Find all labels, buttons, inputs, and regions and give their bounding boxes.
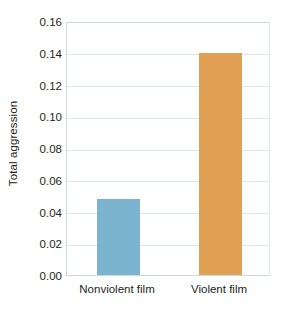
y-axis-tick-label: 0.06	[22, 175, 62, 187]
bar	[97, 199, 140, 275]
y-axis-tick-label: 0.14	[22, 48, 62, 60]
plot-area	[66, 22, 270, 276]
bar	[199, 53, 242, 275]
y-axis-tick-label: 0.04	[22, 207, 62, 219]
x-axis-category-label: Violent film	[191, 283, 247, 295]
y-axis-tick-label: 0.02	[22, 238, 62, 250]
y-axis-tick-label: 0.12	[22, 80, 62, 92]
y-axis-tick-label: 0.16	[22, 16, 62, 28]
y-axis-title-label: Total aggression	[7, 101, 19, 186]
y-axis-tick-label: 0.08	[22, 143, 62, 155]
x-axis-category-label: Nonviolent film	[79, 283, 154, 295]
y-axis-tick-label: 0.00	[22, 270, 62, 282]
bar-chart: Total aggression 0.000.020.040.060.080.1…	[0, 0, 289, 309]
y-axis-tick-label: 0.10	[22, 111, 62, 123]
